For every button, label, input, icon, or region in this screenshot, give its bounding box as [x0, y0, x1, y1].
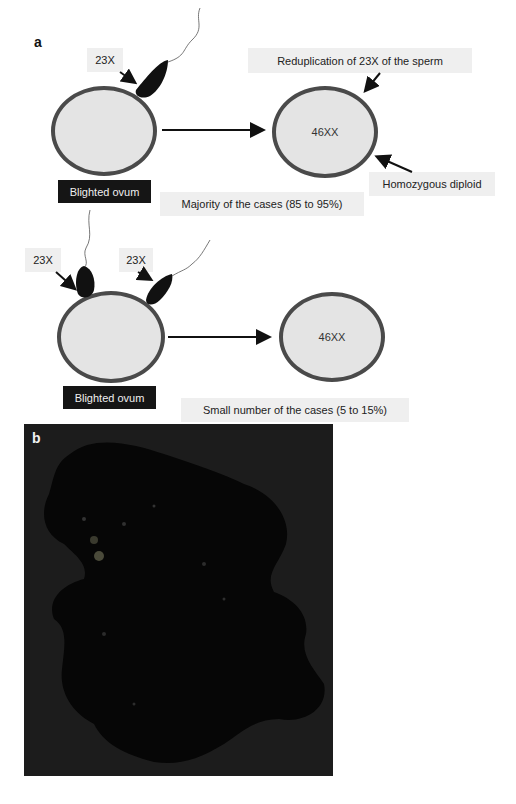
sperm-icon-bottom-1 [76, 210, 95, 297]
arrow-homozygous [378, 157, 412, 172]
arrow-to-sperm-bottom-2 [138, 272, 150, 279]
diagram-arrows-and-sperm [0, 0, 516, 430]
panel-b-label: b [32, 430, 41, 446]
gross-specimen-photo: b [24, 424, 333, 776]
arrow-to-sperm-top [120, 72, 134, 82]
sperm-icon-bottom-2 [146, 240, 210, 305]
specimen-tissue-shape [24, 424, 333, 776]
sperm-icon-top [136, 8, 200, 98]
arrow-to-sperm-bottom-1 [56, 272, 74, 288]
arrow-reduplication [366, 73, 380, 90]
